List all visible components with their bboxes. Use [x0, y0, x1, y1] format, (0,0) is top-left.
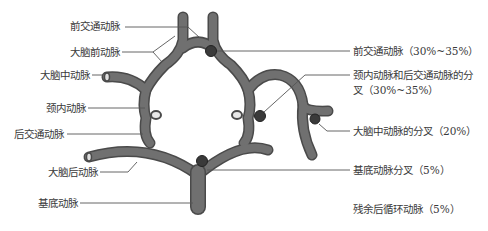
- label-basilar-artery: 基底动脉: [38, 197, 78, 210]
- label-internal-carotid-artery: 颈内动脉: [46, 102, 86, 115]
- label-posterior-communicating-artery: 后交通动脉: [14, 128, 64, 141]
- label-acom-percentage: 前交通动脉（30%~35%）: [353, 45, 478, 58]
- label-ica-pcom-percentage-line2: 叉（30%~35%）: [353, 84, 438, 97]
- aneurysm-basilar: [197, 156, 208, 167]
- aneurysm-mca: [310, 114, 320, 124]
- label-mca-bifurcation-percentage: 大脑中动脉的分叉（20%）: [353, 125, 476, 138]
- aneurysm-acom: [206, 46, 217, 57]
- label-anterior-communicating-artery: 前交通动脉: [70, 20, 120, 33]
- label-ica-pcom-percentage-line1: 颈内动脉和后交通动脉的分: [353, 69, 473, 82]
- aneurysm-ica-pcom: [255, 111, 266, 122]
- label-basilar-bifurcation-percentage: 基底动脉分叉（5%）: [353, 164, 450, 177]
- label-anterior-cerebral-artery: 大脑前动脉: [70, 46, 120, 59]
- label-middle-cerebral-artery: 大脑中动脉: [40, 69, 90, 82]
- label-posterior-circulation-percentage: 残余后循环动脉（5%）: [353, 203, 460, 216]
- vessels: [87, 17, 329, 207]
- label-posterior-cerebral-artery: 大脑后动脉: [48, 166, 98, 179]
